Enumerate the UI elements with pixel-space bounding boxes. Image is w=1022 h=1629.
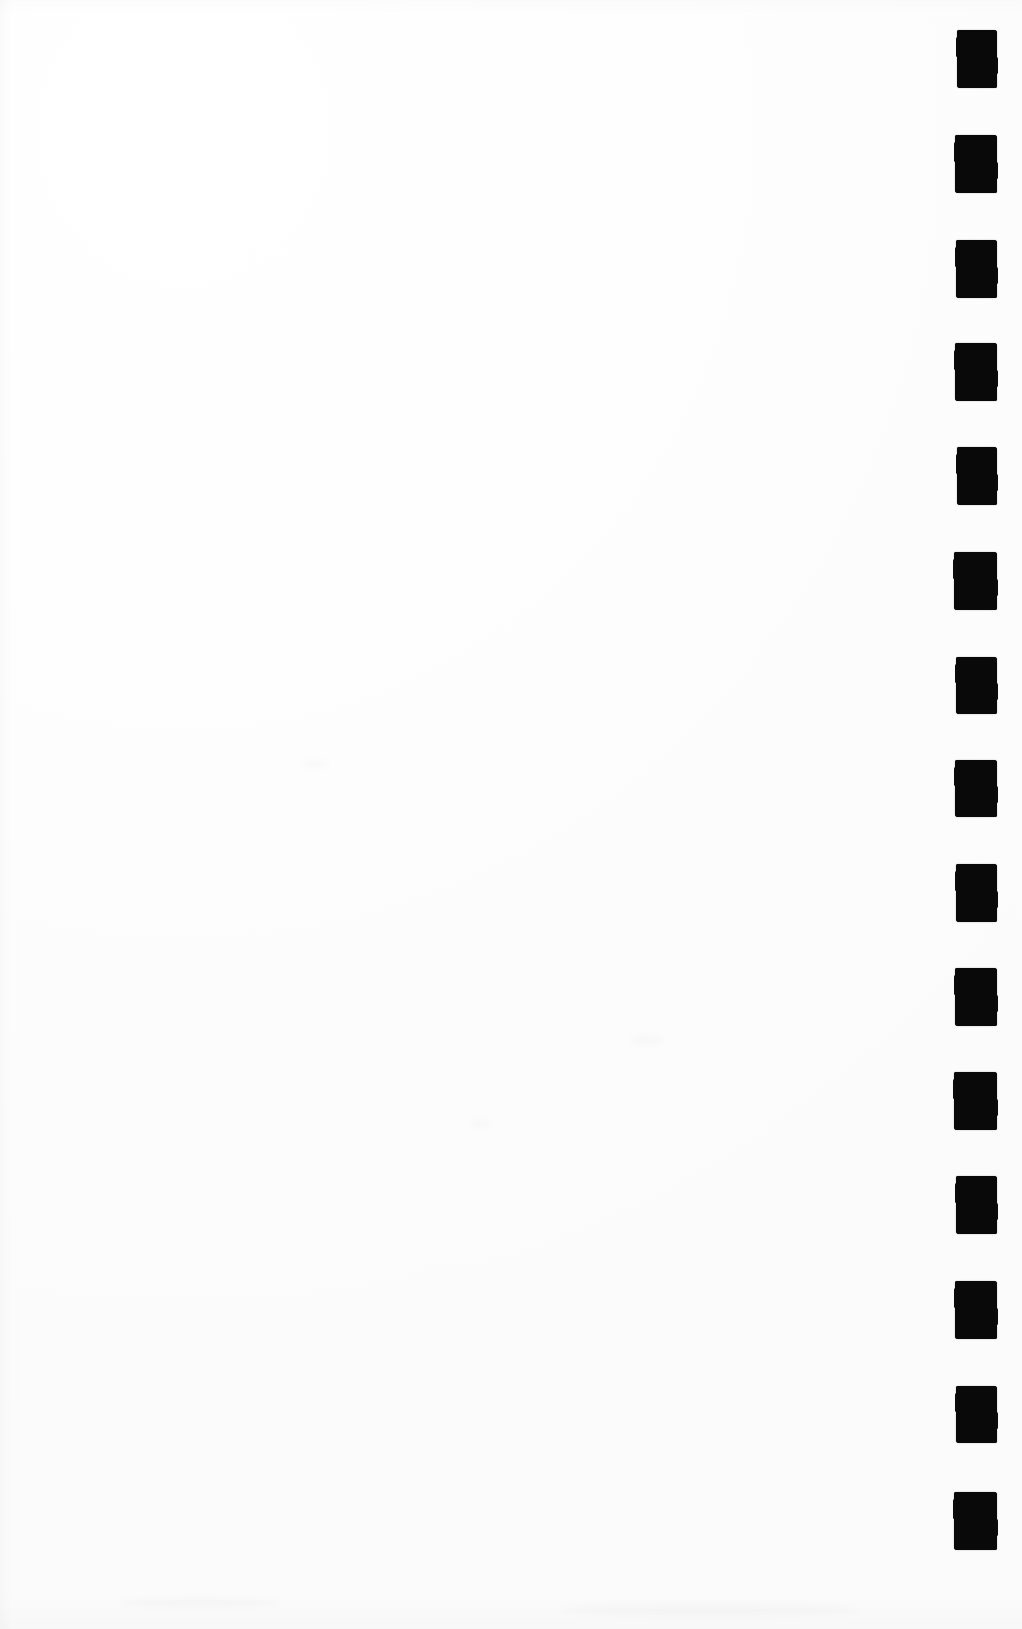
scanned-page xyxy=(0,0,1022,1629)
paper-background xyxy=(0,0,1022,1629)
